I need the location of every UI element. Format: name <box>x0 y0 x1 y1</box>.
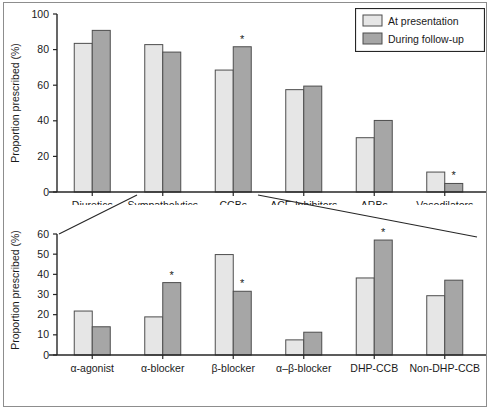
significance-marker: * <box>240 277 245 289</box>
bar <box>233 47 251 192</box>
bar <box>145 317 163 355</box>
significance-marker: * <box>240 33 245 45</box>
bar <box>356 138 374 192</box>
bar <box>163 283 181 355</box>
bar <box>374 240 392 355</box>
bar <box>215 255 233 355</box>
y-tick-label: 40 <box>37 268 49 280</box>
y-tick-label: 60 <box>37 228 49 240</box>
bar <box>74 311 92 355</box>
bottom-bar-chart-panel: 0102030405060 α-agonistα-blockerβ-blocke… <box>0 205 491 410</box>
bar <box>163 52 181 192</box>
bar <box>427 172 445 192</box>
bar <box>74 43 92 192</box>
bar <box>286 90 304 192</box>
category-label: α-blocker <box>141 362 185 374</box>
top-chart-y-tick-labels: 020406080100 <box>31 8 49 198</box>
y-tick-label: 60 <box>37 79 49 91</box>
category-label: α–β-blocker <box>276 362 332 374</box>
significance-marker: * <box>381 226 386 238</box>
top-chart-bars <box>74 30 463 192</box>
bottom-chart-category-labels: α-agonistα-blockerβ-blockerα–β-blockerDH… <box>71 362 481 374</box>
bar <box>304 86 322 192</box>
bar <box>145 45 163 192</box>
bar <box>215 70 233 192</box>
bot-axis <box>49 234 486 359</box>
legend-svg: At presentation During follow-up <box>355 8 485 52</box>
bottom-chart-svg: 0102030405060 α-agonistα-blockerβ-blocke… <box>0 205 491 410</box>
y-tick-label: 0 <box>43 349 49 361</box>
y-tick-label: 20 <box>37 308 49 320</box>
y-tick-label: 50 <box>37 248 49 260</box>
bar <box>356 278 374 355</box>
significance-marker: * <box>170 269 175 281</box>
legend-swatch-during-follow-up <box>363 33 382 44</box>
legend-label-during-follow-up: During follow-up <box>388 33 464 45</box>
bottom-chart-bars <box>74 240 463 355</box>
y-tick-label: 40 <box>37 114 49 126</box>
bar <box>304 332 322 355</box>
significance-marker: * <box>452 169 457 181</box>
top-chart-significance-markers: ** <box>240 33 457 182</box>
y-tick-label: 80 <box>37 43 49 55</box>
y-tick-label: 20 <box>37 150 49 162</box>
category-label: α-agonist <box>71 362 115 374</box>
bar <box>92 327 110 355</box>
category-label: β-blocker <box>212 362 256 374</box>
bar <box>92 30 110 192</box>
bar <box>233 291 251 355</box>
bar <box>374 120 392 192</box>
category-label: Non-DHP-CCB <box>409 362 480 374</box>
top-chart-y-axis-title: Proportion prescribed (%) <box>9 43 21 163</box>
legend: At presentation During follow-up <box>355 8 485 52</box>
y-tick-label: 10 <box>37 328 49 340</box>
bottom-chart-y-tick-labels: 0102030405060 <box>37 228 49 361</box>
legend-label-at-presentation: At presentation <box>388 15 459 27</box>
bar <box>286 340 304 355</box>
legend-swatch-at-presentation <box>363 15 382 26</box>
category-label: DHP-CCB <box>350 362 398 374</box>
bar <box>427 296 445 355</box>
bar <box>445 280 463 355</box>
bottom-chart-y-axis-title: Proportion prescribed (%) <box>9 230 21 350</box>
bottom-chart-significance-markers: *** <box>170 226 387 289</box>
y-tick-label: 100 <box>31 8 49 20</box>
figure-page: 020406080100 DiureticsSympatholyticsCCBs… <box>0 0 491 410</box>
y-tick-label: 30 <box>37 288 49 300</box>
